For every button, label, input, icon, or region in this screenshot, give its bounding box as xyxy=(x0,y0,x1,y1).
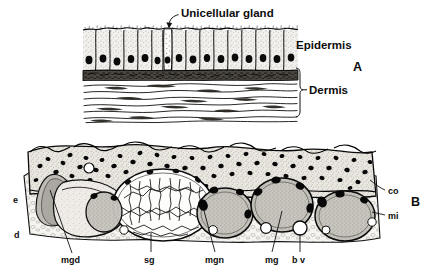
label-e: e xyxy=(13,195,18,205)
label-mg: mg xyxy=(265,255,279,265)
label-sg: sg xyxy=(144,255,155,265)
label-d: d xyxy=(14,230,20,240)
unicellular-gland-cell xyxy=(164,29,172,70)
panel-letter-b: B xyxy=(411,195,420,209)
figure-skin-histology: Unicellular gland Epidermis Dermis A xyxy=(0,0,429,273)
label-mgd: mgd xyxy=(61,255,80,265)
panel-letter-a: A xyxy=(353,60,362,74)
label-dermis-text: Dermis xyxy=(309,84,348,96)
callout-unicellular-gland-label: Unicellular gland xyxy=(181,7,274,19)
label-co: co xyxy=(388,186,399,196)
panel-a-basement-membrane xyxy=(83,70,298,81)
label-mgn: mgn xyxy=(205,255,224,265)
label-epidermis-text: Epidermis xyxy=(296,39,352,51)
label-bv: b v xyxy=(292,255,305,265)
panel-a-dermis xyxy=(83,81,298,125)
label-mi: mi xyxy=(388,211,399,221)
label-epidermis: Epidermis xyxy=(296,39,352,51)
panel-a-epidermis xyxy=(83,25,298,72)
gland-mg-far-left xyxy=(86,192,122,232)
